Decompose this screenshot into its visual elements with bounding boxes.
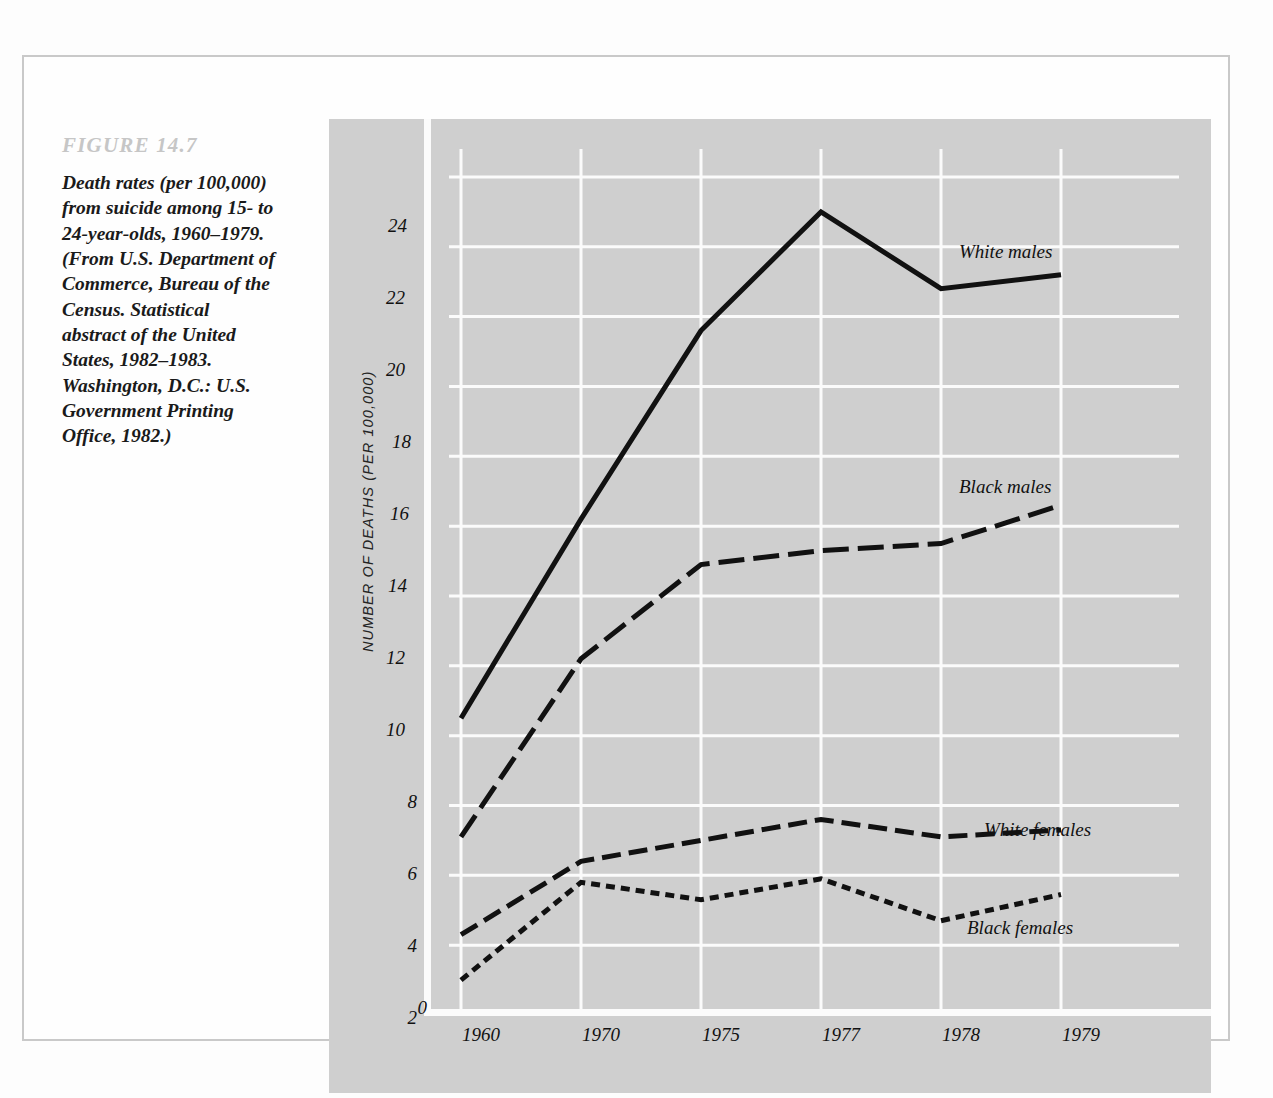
figure-caption-block: FIGURE 14.7 Death rates (per 100,000) fr… (62, 133, 312, 449)
figure-caption-text: Death rates (per 100,000) from suicide a… (62, 170, 277, 449)
series-label-white-males: White males (959, 241, 1052, 263)
y-tick-label-8: 8 (371, 791, 417, 813)
series-label-black-females: Black females (967, 917, 1073, 939)
x-tick-label-1970: 1970 (566, 1024, 636, 1046)
x-tick-label-1960: 1960 (446, 1024, 516, 1046)
y-tick-label-12: 12 (359, 647, 405, 669)
y-tick-label-22: 22 (359, 287, 405, 309)
y-tick-label-14: 14 (361, 575, 407, 597)
vertical-gridlines (461, 149, 1061, 1015)
y-axis-line (424, 119, 431, 1009)
chart-panel: NUMBER OF DEATHS (PER 100,000) 0 2 4 6 8… (329, 119, 1211, 1093)
y-tick-label-2: 2 (371, 1007, 417, 1029)
line-chart-svg (449, 149, 1179, 1015)
x-tick-label-1977: 1977 (806, 1024, 876, 1046)
series-label-black-males: Black males (959, 476, 1051, 498)
y-tick-label-18: 18 (365, 431, 411, 453)
series-label-white-females: White females (984, 819, 1091, 841)
x-tick-label-1979: 1979 (1046, 1024, 1116, 1046)
figure-number: FIGURE 14.7 (62, 133, 312, 158)
y-tick-label-10: 10 (359, 719, 405, 741)
y-tick-label-16: 16 (363, 503, 409, 525)
plot-area (449, 149, 1179, 1015)
y-tick-label-24: 24 (361, 215, 407, 237)
y-tick-label-6: 6 (371, 863, 417, 885)
y-tick-label-4: 4 (371, 935, 417, 957)
x-tick-label-1978: 1978 (926, 1024, 996, 1046)
figure-frame: FIGURE 14.7 Death rates (per 100,000) fr… (22, 55, 1230, 1041)
x-tick-label-1975: 1975 (686, 1024, 756, 1046)
y-tick-label-20: 20 (359, 359, 405, 381)
